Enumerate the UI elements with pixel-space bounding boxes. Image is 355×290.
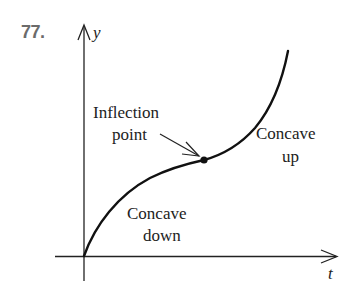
inflection-label-line2: point	[112, 125, 147, 144]
x-axis-label: t	[328, 264, 334, 283]
concave-up-label-line1: Concave	[256, 124, 315, 143]
problem-number: 77.	[21, 22, 45, 43]
arrowhead-icon	[182, 142, 199, 156]
concavity-diagram: 77. y t Inflection point Concave up Conc…	[0, 0, 355, 290]
concave-down-label-line2: down	[143, 226, 181, 245]
y-axis-label: y	[91, 23, 101, 42]
concave-up-label-line2: up	[282, 147, 299, 166]
inflection-point-marker	[200, 156, 207, 163]
graph-svg: y t Inflection point Concave up Concave …	[0, 0, 355, 290]
inflection-label-line1: Inflection	[93, 103, 160, 122]
concave-down-label-line1: Concave	[127, 204, 186, 223]
inflection-arrow	[160, 134, 199, 156]
x-axis	[55, 250, 337, 263]
function-curve	[84, 51, 288, 256]
